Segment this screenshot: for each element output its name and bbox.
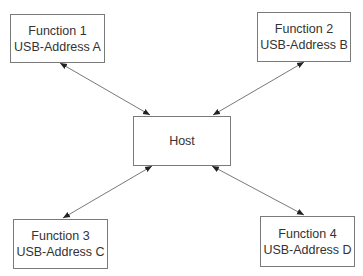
arrow-f3-host [63, 166, 152, 218]
function-2-address: USB-Address B [260, 37, 348, 53]
arrow-f4-host [212, 166, 304, 215]
function-3-title: Function 3 [31, 228, 89, 244]
function-1-address: USB-Address A [14, 39, 101, 55]
function-1-node: Function 1 USB-Address A [10, 14, 105, 63]
host-label: Host [169, 133, 195, 149]
function-3-address: USB-Address C [16, 244, 104, 260]
arrow-f1-host [60, 63, 150, 115]
host-node: Host [133, 116, 231, 166]
function-4-address: USB-Address D [263, 242, 351, 258]
function-4-node: Function 4 USB-Address D [260, 216, 355, 267]
function-4-title: Function 4 [278, 226, 336, 242]
function-1-title: Function 1 [28, 23, 86, 39]
function-3-node: Function 3 USB-Address C [13, 219, 108, 269]
function-2-title: Function 2 [275, 21, 333, 37]
arrow-f2-host [213, 62, 304, 115]
function-2-node: Function 2 USB-Address B [257, 12, 351, 62]
